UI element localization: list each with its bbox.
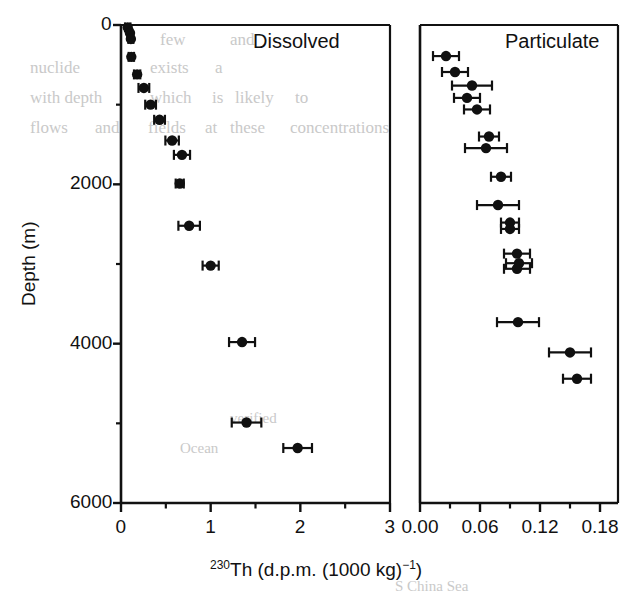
data-series-particulate [433, 51, 591, 384]
data-point-marker [462, 93, 472, 103]
x-axis-title-main: Th (d.p.m. (1000 kg) [230, 559, 402, 580]
data-point-marker [565, 347, 575, 357]
panel-dissolved [113, 25, 390, 512]
x-axis-title: 230Th (d.p.m. (1000 kg)−1) [210, 558, 422, 581]
data-point-marker [513, 317, 523, 327]
data-point-marker [572, 374, 582, 384]
data-point-marker [237, 337, 247, 347]
y-tick-label: 6000 [70, 491, 112, 513]
data-point-marker [481, 143, 491, 153]
y-tick-label: 4000 [70, 332, 112, 354]
data-point-marker [175, 178, 185, 188]
data-point-marker [205, 260, 215, 270]
y-axis-title: Depth (m) [18, 222, 40, 306]
x-tick-label: 2 [295, 516, 306, 538]
data-point-marker [467, 80, 477, 90]
x-tick-label: 0.06 [462, 516, 499, 538]
data-point-marker [126, 52, 136, 62]
data-point-marker [496, 172, 506, 182]
panel-title-dissolved: Dissolved [253, 30, 340, 53]
data-point-marker [177, 150, 187, 160]
x-tick-label: 0.12 [522, 516, 559, 538]
data-point-marker [139, 83, 149, 93]
data-point-marker [126, 34, 136, 44]
x-axis-title-isotope: 230 [210, 558, 230, 572]
x-tick-label: 0.18 [582, 516, 619, 538]
figure-root: fewandnuclideexistsawith depthwhichislik… [0, 0, 644, 602]
x-axis-title-exponent: −1 [402, 558, 416, 572]
data-point-marker [154, 115, 164, 125]
x-tick-label: 0 [116, 516, 127, 538]
y-tick-label: 0 [101, 13, 112, 35]
data-point-marker [512, 264, 522, 274]
panel-title-particulate: Particulate [505, 30, 600, 53]
data-point-marker [441, 51, 451, 61]
data-point-marker [292, 443, 302, 453]
data-point-marker [493, 200, 503, 210]
data-series-dissolved [123, 22, 312, 453]
data-point-marker [167, 135, 177, 145]
data-point-marker [184, 221, 194, 231]
data-point-marker [505, 224, 515, 234]
data-point-marker [241, 417, 251, 427]
data-point-marker [450, 67, 460, 77]
y-tick-label: 2000 [70, 172, 112, 194]
data-point-marker [472, 104, 482, 114]
x-tick-label: 3 [385, 516, 396, 538]
data-point-marker [132, 69, 142, 79]
x-axis-title-close: ) [416, 559, 422, 580]
data-point-marker [145, 99, 155, 109]
x-tick-label: 1 [205, 516, 216, 538]
data-point-marker [484, 131, 494, 141]
x-tick-label: 0.00 [402, 516, 439, 538]
data-point-marker [512, 248, 522, 258]
